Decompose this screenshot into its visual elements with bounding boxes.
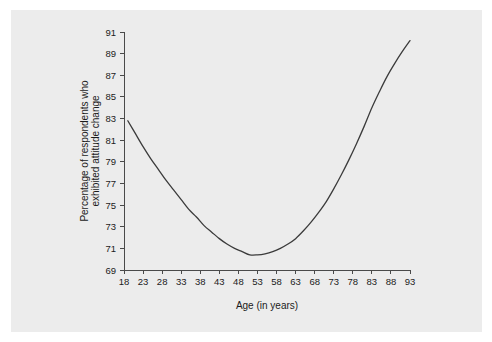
y-tick-label-77: 77	[105, 178, 116, 189]
y-tick-label-87: 87	[105, 70, 116, 81]
y-axis-title: Percentage of respondents whoexhibited a…	[79, 80, 101, 222]
y-axis-tick-labels: 697173757779818385878991	[105, 27, 116, 276]
y-tick-label-83: 83	[105, 113, 116, 124]
y-tick-label-91: 91	[105, 27, 116, 38]
x-tick-label-43: 43	[214, 276, 225, 287]
x-tick-label-78: 78	[348, 276, 359, 287]
y-tick-label-73: 73	[105, 221, 116, 232]
x-tick-label-48: 48	[233, 276, 244, 287]
chart-figure: 697173757779818385878991 182328333843485…	[0, 0, 492, 342]
x-tick-label-83: 83	[367, 276, 378, 287]
x-tick-label-58: 58	[271, 276, 282, 287]
data-curve	[128, 41, 410, 255]
y-axis-title-line-2: exhibited attitude change	[90, 95, 101, 207]
x-tick-label-53: 53	[252, 276, 263, 287]
y-tick-label-75: 75	[105, 200, 116, 211]
x-axis-tick-labels: 18232833384348535863687378838893	[119, 276, 416, 287]
y-tick-label-69: 69	[105, 265, 116, 276]
x-tick-label-68: 68	[309, 276, 320, 287]
x-tick-label-88: 88	[386, 276, 397, 287]
x-tick-label-73: 73	[328, 276, 339, 287]
y-axis-title-line-1: Percentage of respondents who	[79, 80, 90, 222]
y-tick-label-71: 71	[105, 243, 116, 254]
x-axis-title: Age (in years)	[236, 300, 298, 311]
x-tick-label-33: 33	[176, 276, 187, 287]
x-tick-label-23: 23	[138, 276, 149, 287]
x-tick-label-38: 38	[195, 276, 206, 287]
line-chart: 697173757779818385878991 182328333843485…	[0, 0, 492, 342]
y-tick-label-89: 89	[105, 48, 116, 59]
x-axis-tick-marks	[124, 270, 410, 274]
y-tick-label-81: 81	[105, 135, 116, 146]
x-tick-label-63: 63	[290, 276, 301, 287]
y-tick-label-85: 85	[105, 91, 116, 102]
y-axis-tick-marks	[120, 32, 124, 270]
y-tick-label-79: 79	[105, 156, 116, 167]
x-tick-label-93: 93	[405, 276, 416, 287]
x-tick-label-18: 18	[119, 276, 130, 287]
x-tick-label-28: 28	[157, 276, 168, 287]
axis-frame	[124, 32, 410, 270]
